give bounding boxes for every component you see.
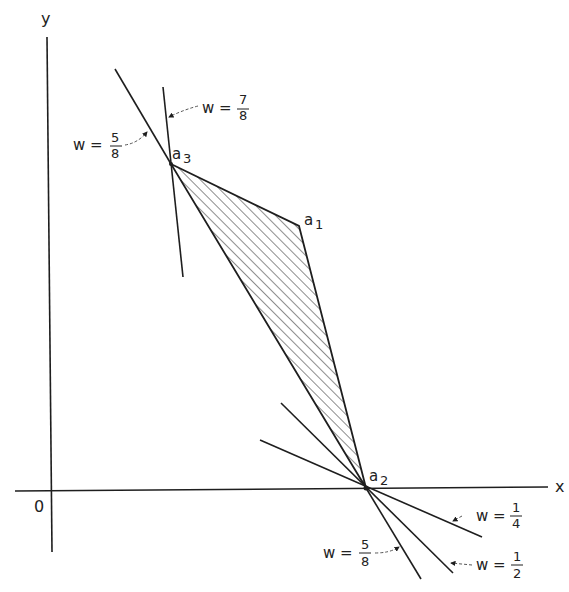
point-a2-dot [364, 486, 369, 491]
point-a3-dot [169, 162, 173, 166]
label-a2-w-1-4: w = 1 4 [453, 500, 522, 531]
svg-text:w =: w = [323, 544, 353, 562]
point-a2-label: a 2 [369, 467, 388, 488]
x-axis: x [15, 477, 564, 496]
svg-text:w =: w = [476, 507, 506, 525]
x-axis-label: x [555, 477, 564, 496]
line-a3-w-5-8 [115, 69, 171, 164]
svg-text:w =: w = [476, 556, 506, 574]
svg-text:a: a [172, 145, 181, 163]
point-a1-label: a 1 [304, 211, 323, 232]
svg-text:5: 5 [111, 130, 119, 145]
svg-text:4: 4 [512, 516, 520, 531]
svg-text:3: 3 [183, 151, 191, 166]
svg-text:w =: w = [73, 136, 103, 154]
feasible-region-diagram: y x 0 a 3 a 1 a 2 w = 5 8 w = 7 8 [0, 0, 569, 592]
svg-text:1: 1 [315, 217, 323, 232]
y-axis: y [41, 9, 52, 552]
feasible-region [171, 164, 366, 488]
y-axis-label: y [41, 9, 50, 28]
svg-text:8: 8 [239, 108, 247, 123]
svg-text:7: 7 [239, 92, 247, 107]
svg-text:2: 2 [513, 566, 521, 581]
point-a3-label: a 3 [172, 145, 191, 166]
label-a2-w-1-2: w = 1 2 [451, 549, 523, 581]
svg-text:8: 8 [111, 146, 119, 161]
svg-text:8: 8 [361, 554, 369, 569]
svg-text:2: 2 [380, 473, 388, 488]
svg-text:a: a [369, 467, 378, 485]
label-a3-w-5-8: w = 5 8 [73, 130, 147, 161]
label-a3-w-7-8: w = 7 8 [169, 92, 249, 123]
svg-text:1: 1 [513, 549, 521, 564]
svg-text:a: a [304, 211, 313, 229]
label-a2-w-5-8: w = 5 8 [323, 537, 399, 569]
svg-text:1: 1 [512, 500, 520, 515]
svg-text:5: 5 [361, 537, 369, 552]
origin-label: 0 [34, 497, 44, 516]
svg-text:w =: w = [202, 99, 232, 117]
